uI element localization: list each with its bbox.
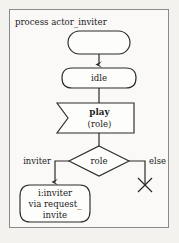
node-idle-label: idle (91, 73, 107, 83)
diagram-page: process actor_inviter idle play (role) r… (0, 0, 179, 243)
node-start[interactable] (68, 31, 130, 54)
process-title: process actor_inviter (15, 17, 108, 28)
node-play-parameter: (role) (88, 119, 112, 129)
edge-label-else: else (149, 156, 166, 166)
edge-role-to-stop (129, 161, 145, 185)
node-task-line1: i:inviter (38, 188, 73, 198)
node-play-label: play (89, 107, 110, 117)
node-task-line3: invite (43, 210, 67, 220)
node-role-label: role (90, 156, 107, 166)
edge-role-to-task (55, 161, 69, 182)
process-flow-diagram: process actor_inviter idle play (role) r… (0, 0, 179, 243)
edge-label-inviter: inviter (23, 156, 51, 166)
node-task-line2: via request_ (28, 199, 83, 210)
